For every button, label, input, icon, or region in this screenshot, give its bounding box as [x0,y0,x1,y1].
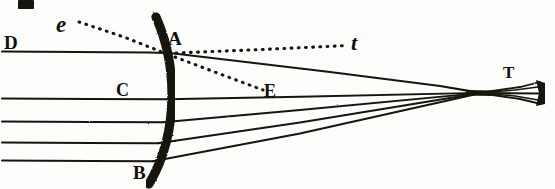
label-T-focus: T [503,64,514,81]
dotted-reflected-ray-t [176,46,348,54]
optics-figure: D A C B E e t T [0,0,555,189]
figure-canvas [0,0,555,189]
label-e-cursive: e [56,13,66,36]
incident-ray-3 [2,143,158,144]
focus-core [466,90,492,96]
incident-ray-4 [2,161,153,162]
label-D: D [4,33,18,52]
label-C: C [116,81,129,99]
reflected-ray-4 [153,94,479,162]
principal-axis [2,52,479,93]
incident-ray-2 [2,122,163,123]
label-B: B [133,163,146,182]
label-t-cursive: t [351,32,357,54]
dotted-incident-ray-e [79,22,167,54]
incident-ray-1 [2,99,167,100]
label-A: A [168,29,182,48]
reflected-ray-2 [163,93,479,122]
label-E: E [264,82,276,100]
